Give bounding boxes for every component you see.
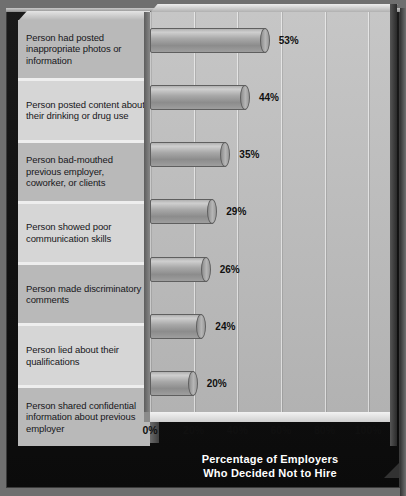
x-tick-label: 60%: [270, 424, 291, 436]
bar-row: 26%: [150, 241, 240, 298]
chart-title: Percentage of Employers Who Decided Not …: [150, 452, 390, 480]
x-tick-label: 100%: [355, 424, 382, 436]
category-label-row: Person posted content about their drinki…: [18, 81, 150, 142]
chart-figure: Person had posted inappropriate photos o…: [0, 0, 406, 496]
bar-end-cap: [207, 199, 217, 224]
bar-row: 20%: [150, 355, 227, 412]
corner-fold-decoration: [384, 462, 400, 478]
category-label-text: Person shared confidential information a…: [26, 400, 146, 435]
x-tick-label: 80%: [314, 424, 335, 436]
bar-end-cap: [188, 371, 198, 396]
plot-floor-front: [144, 412, 150, 422]
category-label-text: Person made discriminatory comments: [26, 283, 146, 306]
bar: [150, 28, 266, 53]
chart-title-line-1: Percentage of Employers: [150, 452, 390, 466]
bar: [150, 142, 226, 167]
bar-value-label: 29%: [226, 206, 246, 217]
plot-floor: [150, 412, 390, 422]
chart-title-line-2: Who Decided Not to Hire: [150, 466, 390, 480]
category-label-panel: Person had posted inappropriate photos o…: [18, 20, 150, 446]
bar-value-label: 35%: [239, 149, 259, 160]
category-label-row: Person made discriminatory comments: [18, 265, 150, 326]
bar-row: 29%: [150, 183, 246, 240]
category-label-text: Person bad-mouthed previous employer, co…: [26, 154, 146, 189]
category-label-row: Person showed poor communication skills: [18, 204, 150, 265]
bar-row: 44%: [150, 69, 279, 126]
bar-value-label: 44%: [259, 92, 279, 103]
bar-value-label: 24%: [215, 321, 235, 332]
category-label-text: Person showed poor communication skills: [26, 221, 146, 244]
bar: [150, 85, 246, 110]
category-label-row: Person bad-mouthed previous employer, co…: [18, 143, 150, 204]
x-tick-label: 40%: [227, 424, 248, 436]
x-tick-label: 20%: [183, 424, 204, 436]
x-axis-tick-labels: 0%20%40%60%80%100%: [150, 424, 400, 442]
category-label-text: Person lied about their qualifications: [26, 344, 146, 367]
bar-end-cap: [240, 85, 250, 110]
bar-series: 53%44%35%29%26%24%20%: [150, 12, 390, 412]
bar-end-cap: [260, 28, 270, 53]
bar-row: 35%: [150, 126, 259, 183]
bar-end-cap: [201, 257, 211, 282]
bar: [150, 257, 207, 282]
x-tick-label: 0%: [142, 424, 157, 436]
plot-right-bevel: [390, 4, 397, 446]
category-label-row: Person had posted inappropriate photos o…: [18, 20, 150, 81]
category-label-row: Person lied about their qualifications: [18, 326, 150, 387]
bar-value-label: 53%: [279, 35, 299, 46]
chart-frame-shadow: [400, 8, 406, 496]
plot-panel: 53%44%35%29%26%24%20% 0%20%40%60%80%100%: [150, 12, 390, 446]
category-label-text: Person had posted inappropriate photos o…: [26, 32, 146, 67]
bar-value-label: 26%: [220, 264, 240, 275]
category-label-text: Person posted content about their drinki…: [26, 99, 146, 122]
bar-value-label: 20%: [207, 378, 227, 389]
bar-end-cap: [196, 314, 206, 339]
bar-row: 24%: [150, 298, 235, 355]
bar: [150, 371, 194, 396]
bar-row: 53%: [150, 12, 299, 69]
bar-end-cap: [220, 142, 230, 167]
bar: [150, 314, 202, 339]
bar: [150, 199, 213, 224]
plot-area: 53%44%35%29%26%24%20%: [150, 12, 390, 412]
category-label-row: Person shared confidential information a…: [18, 388, 150, 446]
